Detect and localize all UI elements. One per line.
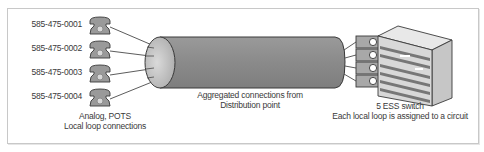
phone-icon — [90, 41, 110, 58]
phone-number-label: 585-475-0004 — [2, 91, 82, 101]
phone-icon — [90, 17, 110, 34]
trunk-caption: Aggregated connections from Distribution… — [180, 90, 320, 110]
phones-caption-line1: Analog, POTS — [50, 111, 160, 121]
phone-icon — [90, 65, 110, 82]
phones-caption: Analog, POTS Local loop connections — [50, 111, 160, 131]
phone-number-label: 585-475-0003 — [2, 67, 82, 77]
trunk-caption-line2: Distribution point — [180, 100, 320, 110]
switch-ports — [356, 36, 380, 87]
phone-icons — [90, 17, 110, 106]
phone-number-label: 585-475-0002 — [2, 43, 82, 53]
phone-icon — [90, 89, 110, 106]
switch-connection-lines — [344, 42, 356, 81]
phone-number-label: 585-475-0001 — [2, 19, 82, 29]
ess-switch-cabinet — [378, 26, 452, 106]
phones-caption-line2: Local loop connections — [50, 121, 160, 131]
switch-caption-line2: Each local loop is assigned to a circuit — [320, 111, 480, 121]
switch-caption-line1: 5 ESS switch — [320, 101, 480, 111]
switch-caption: 5 ESS switch Each local loop is assigned… — [320, 101, 480, 121]
trunk-caption-line1: Aggregated connections from — [180, 90, 320, 100]
aggregated-trunk-cylinder — [145, 37, 345, 88]
